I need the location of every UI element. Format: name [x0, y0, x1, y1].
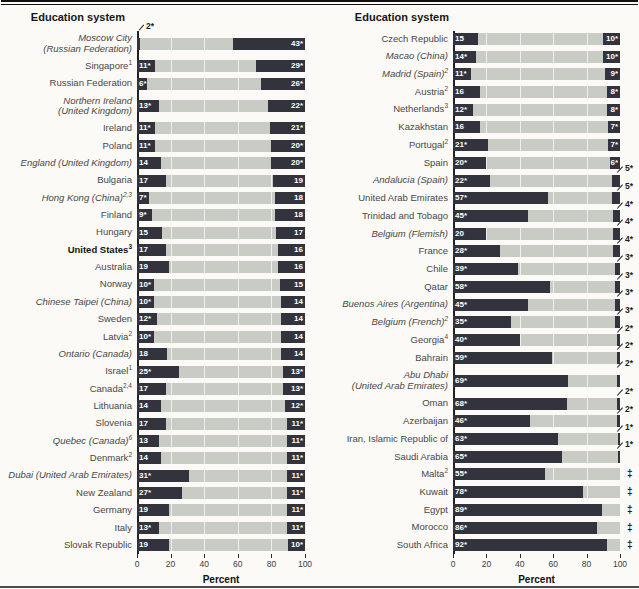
bar-segment-left [453, 504, 602, 516]
bar: 68* [453, 398, 620, 410]
gridline [587, 334, 588, 346]
bar-right-value-annotation: 3* [625, 270, 633, 280]
row-label: Oman [320, 398, 453, 409]
bar-right-value-dagger: ‡ [627, 540, 633, 551]
gridline [486, 157, 487, 169]
gridline [204, 504, 205, 516]
bar-right-value: 17 [294, 227, 303, 239]
chart-row: Czech Republic1510* [320, 30, 639, 48]
gridline [238, 175, 239, 187]
row-label: Denmark2 [0, 453, 137, 464]
gridline [238, 60, 239, 72]
chart-row: Israel125*13* [0, 363, 320, 380]
row-label: Lithuania [0, 401, 137, 412]
gridline [486, 68, 487, 80]
gridline [587, 375, 588, 387]
gridline [171, 261, 172, 273]
row-label: Dubai (United Arab Emirates) [0, 470, 137, 481]
panel-right-header: Education system [320, 11, 453, 23]
bar-right-value: 20* [291, 157, 303, 169]
bar-right-value-annotation: 2* [625, 386, 633, 396]
axis-tick-mark [453, 554, 454, 558]
gridline [204, 522, 205, 534]
bar-segment-left [453, 486, 583, 498]
bar-segment-right [617, 352, 620, 364]
bar: 12*14 [137, 313, 305, 325]
gridline [553, 352, 554, 364]
axis-tick-label: 60 [548, 559, 557, 569]
gridline [587, 210, 588, 222]
bar-right-value: 7* [610, 139, 618, 151]
gridline [204, 157, 205, 169]
footnote-marker: 1 [128, 364, 132, 371]
gridline [486, 121, 487, 133]
bar: 1911* [137, 504, 305, 516]
bar-left-value: 10* [139, 279, 151, 291]
gridline [238, 192, 239, 204]
bar-right-value: 6* [610, 157, 618, 169]
gridline [271, 487, 272, 499]
row-label: Slovak Republic [0, 540, 137, 551]
row-label: Andalucia (Spain) [320, 175, 453, 186]
chart-row: Latvia210*14 [0, 328, 320, 345]
bar-area: 1911* [137, 502, 305, 519]
bar-right-value: 11* [291, 504, 303, 516]
chart-row: Poland11*20* [0, 137, 320, 154]
row-label: Ireland [0, 123, 137, 134]
gridline [587, 228, 588, 240]
row-label: Saudi Arabia [320, 452, 453, 463]
gridline [171, 60, 172, 72]
bar-right-value-annotation: 3* [625, 252, 633, 262]
gridline [238, 227, 239, 239]
bar-area: 63*1* [453, 430, 620, 448]
row-label: Finland [0, 210, 137, 221]
bar: 20 [453, 228, 620, 240]
bar-area: 1517 [137, 224, 305, 241]
bar-area: 1411* [137, 450, 305, 467]
chart-row: Chile39*3* [320, 260, 639, 278]
row-label: Latvia2 [0, 332, 137, 343]
gridline [171, 140, 172, 152]
bar-area: 12*14 [137, 311, 305, 328]
bar-left-value: 15 [139, 227, 148, 239]
footnote-marker: 2 [444, 138, 448, 145]
row-label: Austria2 [320, 87, 453, 98]
bar: 1814 [137, 348, 305, 360]
gridline [520, 175, 521, 187]
bar-left-value: 28* [455, 245, 467, 257]
bar-right-value: 11* [291, 470, 303, 482]
bar-area: 12*8* [453, 101, 620, 119]
gridline [204, 435, 205, 447]
bar: 86* [453, 522, 620, 534]
gridline [238, 522, 239, 534]
bar-area: 13*22* [137, 92, 305, 120]
chart-row: Italy13*11* [0, 519, 320, 536]
chart-row: France28*4* [320, 243, 639, 261]
bar: 57* [453, 192, 620, 204]
bar-left-value: 45* [455, 299, 467, 311]
gridline [553, 468, 554, 480]
row-label: Qatar [320, 282, 453, 293]
gridline [271, 244, 272, 256]
gridline [486, 228, 487, 240]
gridline [553, 263, 554, 275]
bar-left-value: 17 [139, 244, 148, 256]
bar-left-value: 19 [139, 504, 148, 516]
bar-area: 20*6* [453, 154, 620, 172]
gridline [553, 210, 554, 222]
gridline [553, 51, 554, 63]
gridline [171, 522, 172, 534]
bar-right-value-dagger: ‡ [627, 522, 633, 533]
bar-left-value: 20 [455, 228, 464, 240]
bar: 14*10* [453, 51, 620, 63]
footnote-marker: 2,3 [123, 191, 132, 198]
bar-right-value-dagger: ‡ [627, 504, 633, 515]
bar-segment-right [612, 175, 620, 187]
gridline [587, 139, 588, 151]
bar-segment-left [453, 539, 607, 551]
gridline [271, 418, 272, 430]
gridline [553, 281, 554, 293]
bar-area: 1510* [453, 30, 620, 48]
bar-left-value: 92* [455, 539, 467, 551]
gridline [171, 383, 172, 395]
